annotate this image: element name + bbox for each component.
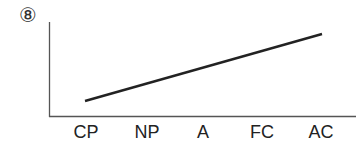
x-tick-np: NP [134, 122, 159, 143]
x-tick-a: A [197, 122, 209, 143]
figure-number-label: ⑧ [19, 5, 37, 25]
x-tick-fc: FC [250, 122, 274, 143]
diagram [0, 0, 361, 147]
x-tick-cp: CP [73, 122, 98, 143]
trend-line [85, 34, 322, 101]
x-tick-ac: AC [308, 122, 333, 143]
